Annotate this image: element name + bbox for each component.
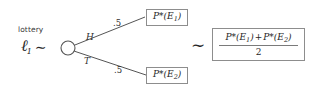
outcome-e1-close: ) xyxy=(178,11,182,21)
outcome-e1-event: E xyxy=(167,11,174,21)
numerator-term2-close: ) xyxy=(288,32,292,42)
numerator-operator: + xyxy=(255,32,263,42)
branch-label-heads: H xyxy=(86,32,94,42)
outcome-box-e1: P*(E1) xyxy=(146,9,188,26)
expected-value-box: P*(E1)+P*(E2) 2 xyxy=(212,28,305,61)
outcome-e2-close: ) xyxy=(178,69,182,79)
numerator-term2-event: E xyxy=(277,32,284,42)
chance-node-circle xyxy=(61,41,75,55)
branch-probability-tails: .5 xyxy=(114,65,122,75)
numerator-term1-close: ) xyxy=(250,32,254,42)
branch-label-tails: T xyxy=(84,56,90,66)
outcome-box-e2: P*(E2) xyxy=(146,67,188,84)
expected-value-numerator: P*(E1)+P*(E2) xyxy=(219,32,298,46)
expected-value-denominator: 2 xyxy=(217,46,300,57)
branch-probability-heads: .5 xyxy=(113,18,121,28)
equivalence-tilde: ∼ xyxy=(191,35,205,55)
lottery-tree-figure: lottery ℓ1∼ H .5 T .5 P*(E1) P*(E2) ∼ P*… xyxy=(0,0,313,95)
outcome-e2-event: E xyxy=(167,69,174,79)
branch-line-heads xyxy=(74,17,145,45)
